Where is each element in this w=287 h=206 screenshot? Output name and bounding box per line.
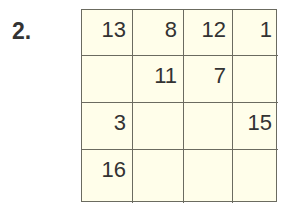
grid-cell: 16 (82, 150, 133, 203)
grid-cell: 11 (133, 56, 184, 103)
grid-cell: 13 (82, 10, 133, 56)
grid-cell: 12 (184, 10, 233, 56)
grid-cell (233, 150, 278, 203)
grid-cell: 3 (82, 103, 133, 150)
grid-cell (184, 150, 233, 203)
problem-number: 2. (12, 18, 31, 45)
grid-cell: 7 (184, 56, 233, 103)
grid-cell (233, 56, 278, 103)
magic-square-grid: 13 8 12 1 11 7 3 15 16 (81, 9, 277, 202)
grid-cell: 1 (233, 10, 278, 56)
grid-cell: 8 (133, 10, 184, 56)
grid-cell (133, 103, 184, 150)
grid-cell (82, 56, 133, 103)
grid-cell (133, 150, 184, 203)
grid-cell: 15 (233, 103, 278, 150)
grid-cell (184, 103, 233, 150)
